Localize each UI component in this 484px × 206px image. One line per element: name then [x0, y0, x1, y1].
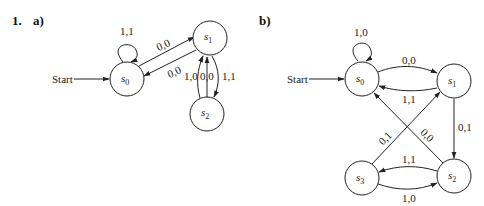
- state-a-s1: s1: [193, 21, 227, 55]
- edge-label-a-s0-s1: 0,0: [154, 36, 172, 53]
- edge-a-s0-s0: [118, 45, 137, 62]
- state-b-s3: s3: [345, 161, 379, 195]
- edge-label-a-s2-s1-mid: 0,0: [200, 70, 214, 82]
- start-label-a: Start: [52, 73, 73, 85]
- state-b-s0: s0: [345, 62, 379, 96]
- edge-b-s0-s1: [378, 66, 437, 73]
- start-label-b: Start: [287, 73, 308, 85]
- edge-b-s3-s2: [378, 183, 437, 189]
- edge-label-b-s3-s1: 0,1: [376, 129, 394, 147]
- part-a-label: a): [33, 13, 44, 28]
- edge-label-b-s2-s0: 0,0: [418, 126, 437, 145]
- diagram-a: 1. a) Start 1,1 0,0 0,0 1,0 0,0 1,1 s0 s…: [12, 13, 236, 131]
- edge-label-a-s0-s0: 1,1: [120, 25, 134, 37]
- edge-label-b-s0-s0: 1,0: [354, 26, 368, 38]
- state-a-s0: s0: [110, 62, 144, 96]
- state-diagrams-canvas: 1. a) Start 1,1 0,0 0,0 1,0 0,0 1,1 s0 s…: [0, 0, 484, 206]
- edge-b-s1-s0: [379, 86, 437, 91]
- diagram-b: b) Start 1,0 0,0 1,1 0,1 0,1 0,0 1,1 1,0: [259, 13, 472, 204]
- edge-label-a-s2-s1-left: 1,0: [184, 70, 198, 82]
- edge-b-s2-s3: [379, 167, 437, 172]
- edge-label-b-s1-s2: 0,1: [458, 121, 472, 133]
- state-b-s2: s2: [437, 159, 471, 193]
- edge-label-b-s0-s1: 0,0: [402, 54, 416, 66]
- edge-label-b-s1-s0: 1,1: [402, 93, 416, 105]
- problem-number: 1.: [12, 13, 22, 28]
- edge-label-a-s1-s2: 1,1: [222, 70, 236, 82]
- edge-label-b-s2-s3: 1,1: [402, 153, 416, 165]
- edge-b-s0-s0: [353, 43, 371, 61]
- state-b-s1: s1: [437, 64, 471, 98]
- part-b-label: b): [259, 13, 271, 28]
- edge-label-b-s3-s2: 1,0: [402, 192, 416, 204]
- edge-label-a-s1-s0: 0,0: [165, 63, 183, 80]
- state-a-s2: s2: [190, 97, 224, 131]
